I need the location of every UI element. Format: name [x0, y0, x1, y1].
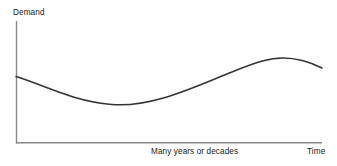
- chart-background: [0, 0, 337, 166]
- y-axis-label: Demand: [13, 8, 45, 18]
- demand-time-chart: Demand Many years or decades Time: [0, 0, 337, 166]
- x-axis-label: Time: [307, 147, 325, 157]
- x-axis-caption: Many years or decades: [151, 147, 238, 157]
- chart-canvas: [0, 0, 337, 166]
